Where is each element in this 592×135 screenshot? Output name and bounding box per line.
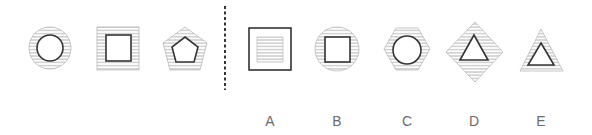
puzzle-canvas [0, 0, 592, 135]
option-e-label: E [531, 113, 551, 129]
option-c-figure[interactable] [384, 28, 430, 70]
option-d-label: D [464, 113, 484, 129]
option-d-figure[interactable] [446, 22, 503, 82]
option-c-label: C [397, 113, 417, 129]
option-a-label: A [260, 113, 280, 129]
option-b-label: B [327, 113, 347, 129]
option-a-figure[interactable] [249, 28, 291, 70]
option-e-figure[interactable] [520, 29, 563, 71]
question-figure-1-circle-in-circle [29, 27, 71, 69]
option-b-figure[interactable] [315, 27, 359, 71]
question-figure-3-pentagon-in-pentagon [163, 27, 207, 70]
question-figure-2-square-in-square [97, 27, 139, 70]
